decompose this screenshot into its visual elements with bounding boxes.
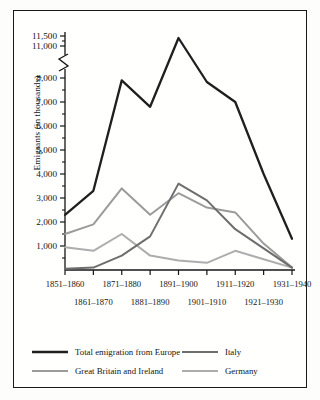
y-tick-label: 7,000 bbox=[36, 97, 57, 107]
x-tick-label: 1881–1890 bbox=[131, 297, 170, 307]
legend-label: Germany bbox=[225, 366, 258, 376]
y-tick-label: 11,500 bbox=[32, 31, 57, 41]
y-tick-label: 11,000 bbox=[32, 41, 57, 51]
x-tick-label: 1911–1920 bbox=[216, 279, 254, 289]
y-axis: 11,50011,0008,0007,0006,0005,0004,0003,0… bbox=[32, 31, 68, 270]
legend-label: Total emigration from Europe bbox=[75, 347, 180, 357]
y-tick-label: 4,000 bbox=[36, 169, 57, 179]
data-series-group bbox=[65, 38, 292, 269]
x-tick-label: 1851–1860 bbox=[46, 279, 85, 289]
x-tick-label: 1921–1930 bbox=[244, 297, 283, 307]
line-chart-svg: 11,50011,0008,0007,0006,0005,0004,0003,0… bbox=[0, 0, 320, 400]
x-tick-label: 1931–1940 bbox=[273, 279, 312, 289]
x-axis: 1851–18601861–18701871–18801881–18901891… bbox=[46, 270, 312, 307]
y-tick-label: 3,000 bbox=[36, 193, 57, 203]
series-line bbox=[65, 184, 292, 269]
chart-legend: Total emigration from EuropeItalyGreat B… bbox=[32, 347, 258, 376]
series-line bbox=[65, 188, 292, 267]
legend-label: Italy bbox=[225, 347, 242, 357]
x-tick-label: 1891–1900 bbox=[159, 279, 198, 289]
x-tick-label: 1901–1910 bbox=[188, 297, 227, 307]
y-tick-label: 1,000 bbox=[36, 241, 57, 251]
y-tick-label: 2,000 bbox=[36, 217, 57, 227]
x-tick-label: 1871–1880 bbox=[102, 279, 141, 289]
figure-container: Emigrants (in thousands) 11,50011,0008,0… bbox=[0, 0, 320, 400]
x-tick-label: 1861–1870 bbox=[74, 297, 113, 307]
y-tick-label: 8,000 bbox=[36, 73, 57, 83]
y-tick-label: 6,000 bbox=[36, 121, 57, 131]
y-tick-label: 5,000 bbox=[36, 145, 57, 155]
series-line bbox=[65, 38, 292, 239]
chart-plot-area: 11,50011,0008,0007,0006,0005,0004,0003,0… bbox=[0, 0, 320, 400]
legend-label: Great Britain and Ireland bbox=[75, 366, 164, 376]
series-line bbox=[65, 234, 292, 268]
